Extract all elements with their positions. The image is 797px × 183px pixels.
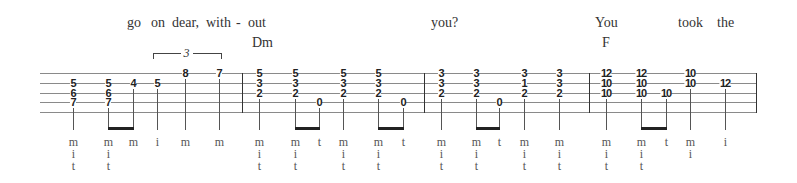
finger-label: t	[342, 160, 345, 172]
finger-label: t	[640, 160, 643, 172]
finger-label: i	[724, 136, 727, 148]
fret-number: 2	[473, 88, 479, 98]
fret-number: 10	[635, 88, 646, 98]
eighth-note-beam	[295, 127, 320, 130]
finger-label: t	[377, 160, 380, 172]
fret-number: 8	[182, 68, 188, 78]
lyric-word: took	[678, 16, 703, 30]
fret-number: 7	[105, 97, 111, 107]
staff-line	[40, 102, 757, 103]
finger-label: t	[72, 160, 75, 172]
barline	[589, 73, 590, 113]
chord-symbol: Dm	[252, 36, 273, 50]
finger-label: i	[689, 148, 692, 160]
fret-number: 5	[154, 78, 160, 88]
fret-number: 2	[438, 88, 444, 98]
fret-number: 2	[256, 88, 262, 98]
finger-label: t	[665, 136, 668, 148]
fret-number: 7	[70, 97, 76, 107]
fret-number: 2	[521, 88, 527, 98]
lyric-word: you?	[431, 16, 458, 30]
finger-label: t	[558, 160, 561, 172]
lyric-word: the	[717, 16, 734, 30]
fret-number: 0	[496, 97, 502, 107]
finger-label: t	[318, 136, 321, 148]
note-stem	[157, 89, 158, 130]
note-stem	[725, 89, 726, 130]
finger-label: t	[475, 160, 478, 172]
finger-label: t	[605, 160, 608, 172]
chord-symbol: F	[602, 36, 610, 50]
lyric-word: out	[248, 16, 266, 30]
note-stem	[259, 99, 260, 130]
eighth-note-beam	[108, 127, 134, 130]
note-stem	[476, 99, 477, 130]
fret-number: 10	[600, 88, 611, 98]
note-stem	[219, 79, 220, 130]
lyric-word: on	[151, 16, 165, 30]
finger-label: m	[215, 136, 224, 148]
finger-label: t	[440, 160, 443, 172]
barline	[756, 73, 757, 113]
note-stem	[441, 99, 442, 130]
finger-label: t	[498, 136, 501, 148]
fret-number: 7	[216, 68, 222, 78]
fret-number: 0	[316, 97, 322, 107]
lyric-word: go	[127, 16, 141, 30]
fret-number: 10	[660, 88, 671, 98]
finger-label: t	[107, 160, 110, 172]
eighth-note-beam	[641, 127, 667, 130]
fret-number: 10	[684, 78, 695, 88]
fret-number: 4	[130, 78, 136, 88]
staff-line	[40, 73, 757, 74]
note-stem	[606, 99, 607, 130]
note-stem	[641, 99, 642, 130]
barline	[242, 73, 243, 113]
lyric-word: You	[595, 16, 618, 30]
note-stem	[378, 99, 379, 130]
note-stem	[343, 99, 344, 130]
fret-number: 2	[340, 88, 346, 98]
finger-label: t	[523, 160, 526, 172]
finger-label: i	[156, 136, 159, 148]
note-stem	[133, 89, 134, 130]
finger-label: t	[294, 160, 297, 172]
lyric-word: dear,	[172, 16, 199, 30]
staff-line	[40, 83, 757, 84]
barline	[424, 73, 425, 113]
finger-label: m	[129, 136, 138, 148]
note-stem	[524, 99, 525, 130]
fret-number: 2	[292, 88, 298, 98]
fret-number: 12	[719, 78, 730, 88]
fret-number: 2	[556, 88, 562, 98]
note-stem	[666, 99, 667, 130]
lyric-word: with	[206, 16, 231, 30]
fret-number: 0	[400, 97, 406, 107]
tablature-sheet: goondear,with-outyou?Youtookthe DmF 3 56…	[0, 0, 797, 183]
staff-line	[40, 93, 757, 94]
finger-label: t	[402, 136, 405, 148]
lyric-word: -	[236, 16, 241, 30]
note-stem	[73, 108, 74, 130]
note-stem	[559, 99, 560, 130]
note-stem	[185, 79, 186, 130]
staff-line	[40, 112, 757, 113]
finger-label: m	[181, 136, 190, 148]
finger-label: t	[258, 160, 261, 172]
eighth-note-beam	[476, 127, 500, 130]
eighth-note-beam	[378, 127, 404, 130]
triplet-number: 3	[181, 47, 193, 59]
note-stem	[295, 99, 296, 130]
fret-number: 2	[375, 88, 381, 98]
note-stem	[690, 89, 691, 130]
